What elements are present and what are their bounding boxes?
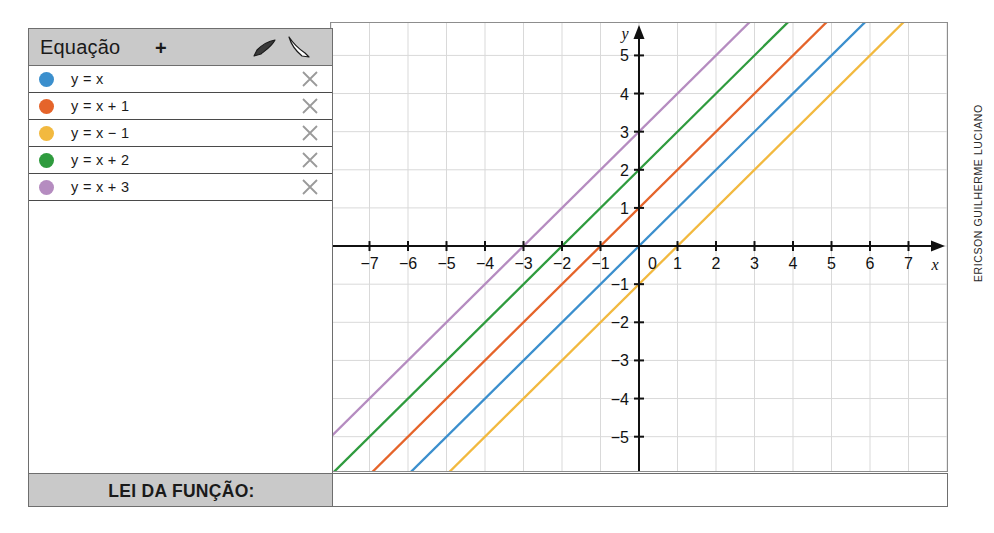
equation-row[interactable]: y = x [29, 66, 332, 93]
equation-row[interactable]: y = x − 1 [29, 120, 332, 147]
equation-label: y = x + 2 [71, 152, 129, 168]
y-axis-label: y [619, 25, 629, 43]
equation-color-swatch[interactable] [39, 72, 54, 87]
x-axis-tick-label: 6 [866, 255, 875, 272]
close-x-icon[interactable] [300, 123, 320, 143]
x-axis-tick-label: −4 [476, 255, 494, 272]
lei-da-funcao-bar: LEI DA FUNÇÃO: [28, 473, 333, 507]
close-x-icon[interactable] [300, 177, 320, 197]
y-axis-tick-label: −3 [611, 352, 629, 369]
equation-panel-header: Equação + [29, 29, 332, 66]
add-equation-button[interactable]: + [155, 37, 167, 60]
equation-label: y = x − 1 [71, 125, 129, 141]
y-axis-tick-label: 2 [620, 162, 629, 179]
panel-title: Equação [40, 36, 120, 59]
equation-color-swatch[interactable] [39, 126, 54, 141]
x-axis-arrowhead [931, 241, 945, 252]
y-axis-tick-label: −2 [611, 314, 629, 331]
y-axis-arrowhead [634, 25, 645, 39]
y-axis-tick-label: 4 [620, 86, 629, 103]
equation-row[interactable]: y = x + 1 [29, 93, 332, 120]
x-axis-tick-label: 0 [648, 255, 657, 272]
graph-plot-area[interactable]: −7−6−5−4−3−2−101234567−5−4−3−2−112345xy [330, 22, 948, 472]
x-axis-tick-label: −1 [591, 255, 609, 272]
equation-label: y = x + 1 [71, 98, 129, 114]
close-x-icon[interactable] [300, 150, 320, 170]
y-axis-tick-label: −1 [611, 276, 629, 293]
y-axis-tick-label: 3 [620, 124, 629, 141]
equation-label: y = x + 3 [71, 179, 129, 195]
x-axis-tick-label: 7 [904, 255, 913, 272]
x-axis-label: x [930, 256, 938, 273]
graph-svg: −7−6−5−4−3−2−101234567−5−4−3−2−112345xy [331, 23, 947, 471]
axes [331, 25, 945, 471]
lei-da-funcao-label: LEI DA FUNÇÃO: [29, 481, 334, 502]
x-axis-tick-label: −5 [437, 255, 455, 272]
equation-label: y = x [71, 71, 104, 87]
y-axis-tick-label: −5 [611, 429, 629, 446]
x-axis-tick-label: 5 [827, 255, 836, 272]
x-axis-tick-label: −3 [514, 255, 532, 272]
x-axis-tick-label: 2 [712, 255, 721, 272]
x-axis-tick-label: −7 [360, 255, 378, 272]
equation-row[interactable]: y = x + 2 [29, 147, 332, 174]
y-axis-tick-label: 5 [620, 47, 629, 64]
close-x-icon[interactable] [300, 96, 320, 116]
close-x-icon[interactable] [300, 69, 320, 89]
cursor-arrow-dark-icon[interactable] [253, 37, 277, 59]
x-axis-tick-label: −2 [553, 255, 571, 272]
lei-da-funcao-input[interactable] [333, 473, 948, 507]
y-axis-tick-label: −4 [611, 391, 629, 408]
equation-color-swatch[interactable] [39, 99, 54, 114]
equation-color-swatch[interactable] [39, 153, 54, 168]
x-axis-tick-label: 4 [789, 255, 798, 272]
x-axis-tick-label: −6 [399, 255, 417, 272]
x-axis-tick-label: 3 [750, 255, 759, 272]
equation-row[interactable]: y = x + 3 [29, 174, 332, 201]
credit-text: ERICSON GUILHERME LUCIANO [972, 22, 988, 282]
equation-list: y = xy = x + 1y = x − 1y = x + 2y = x + … [29, 66, 332, 201]
y-axis-tick-label: 1 [620, 200, 629, 217]
cursor-arrow-light-icon[interactable] [287, 35, 311, 60]
x-axis-tick-label: 1 [673, 255, 682, 272]
equation-color-swatch[interactable] [39, 180, 54, 195]
equation-panel: Equação + y = xy = x + 1y = x − 1y = x +… [28, 28, 333, 480]
figure-root: −7−6−5−4−3−2−101234567−5−4−3−2−112345xy … [0, 0, 994, 533]
